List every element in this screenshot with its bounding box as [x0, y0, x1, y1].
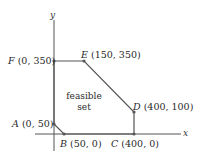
point-e-coords: (150, 350)	[91, 49, 141, 60]
feasible-set-label: feasible set	[66, 91, 102, 114]
label-point-e: E (150, 350)	[81, 50, 141, 60]
point-d-coords: (400, 100)	[144, 101, 194, 112]
point-d-name: D	[133, 101, 141, 112]
y-axis-label: y	[50, 11, 55, 20]
point-c-coords: (400, 0)	[121, 138, 159, 149]
label-point-f: F (0, 350)	[8, 56, 55, 66]
point-f-name: F	[8, 55, 15, 66]
point-c-name: C	[111, 138, 118, 149]
feasible-set-label-line1: feasible	[66, 91, 102, 102]
label-point-a: A (0, 50)	[12, 119, 54, 129]
point-f-coords: (0, 350)	[18, 55, 56, 66]
diagram-graphics	[0, 0, 197, 158]
feasible-set-diagram: y x F (0, 350) E (150, 350) D (400, 100)…	[0, 0, 197, 158]
feasible-set-label-line2: set	[66, 102, 102, 113]
point-b-name: B	[60, 138, 67, 149]
label-point-b: B (50, 0)	[60, 139, 102, 149]
x-axis-label: x	[183, 129, 188, 138]
point-a-coords: (0, 50)	[22, 118, 54, 129]
point-e-name: E	[81, 49, 88, 60]
label-point-c: C (400, 0)	[111, 139, 159, 149]
point-a-name: A	[12, 118, 19, 129]
point-b	[62, 132, 65, 135]
label-point-d: D (400, 100)	[133, 102, 193, 112]
point-c	[132, 132, 135, 135]
point-b-coords: (50, 0)	[70, 138, 102, 149]
